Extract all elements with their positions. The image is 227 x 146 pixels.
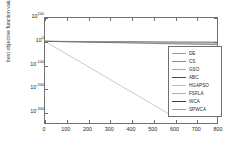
x-tick-mark — [132, 120, 133, 123]
legend-swatch-icon — [172, 101, 186, 102]
x-tick-mark — [67, 120, 68, 123]
legend-item-wca[interactable]: WCA — [169, 98, 221, 106]
x-tick-label: 400 — [119, 126, 143, 132]
x-tick-mark — [45, 18, 46, 21]
x-tick-label: 200 — [76, 126, 100, 132]
series-line-spwca — [45, 41, 174, 117]
x-tick-mark — [110, 18, 111, 21]
legend-swatch-icon — [172, 93, 186, 94]
x-tick-mark — [132, 18, 133, 21]
legend-label: WCA — [189, 99, 200, 104]
x-tick-mark — [154, 18, 155, 21]
y-tick-mark — [45, 113, 48, 114]
legend-label: CS — [189, 59, 195, 64]
legend-swatch-icon — [172, 61, 186, 62]
legend-label: SPWCA — [189, 107, 206, 112]
legend-item-gso[interactable]: GSO — [169, 65, 221, 73]
x-tick-label: 600 — [163, 126, 187, 132]
legend-swatch-icon — [172, 53, 186, 54]
legend-item-fsfla[interactable]: FSFLA — [169, 89, 221, 97]
x-tick-label: 700 — [184, 126, 208, 132]
x-tick-mark — [176, 120, 177, 123]
x-tick-mark — [197, 18, 198, 21]
x-tick-label: 500 — [141, 126, 165, 132]
legend-swatch-icon — [172, 85, 186, 86]
x-tick-label: 800 — [206, 126, 227, 132]
legend-label: HGAPSO — [189, 83, 209, 88]
legend-swatch-icon — [172, 69, 186, 70]
convergence-chart-figure: best objective function value 1010010010… — [0, 0, 227, 146]
x-tick-label: 0 — [32, 126, 56, 132]
y-tick-mark — [214, 18, 217, 19]
x-tick-mark — [197, 120, 198, 123]
y-tick-mark — [45, 42, 48, 43]
y-tick-mark — [45, 66, 48, 67]
legend-label: FSFLA — [189, 91, 204, 96]
x-tick-mark — [89, 18, 90, 21]
legend-item-spwca[interactable]: SPWCA — [169, 106, 221, 114]
x-tick-mark — [67, 18, 68, 21]
legend-item-hgapso[interactable]: HGAPSO — [169, 81, 221, 89]
legend-swatch-icon — [172, 109, 186, 110]
x-tick-mark — [45, 120, 46, 123]
x-tick-mark — [110, 120, 111, 123]
x-tick-label: 300 — [97, 126, 121, 132]
legend[interactable]: DECSGSOABCHGAPSOFSFLAWCASPWCA — [168, 46, 222, 117]
x-tick-mark — [154, 120, 155, 123]
legend-item-de[interactable]: DE — [169, 49, 221, 57]
y-tick-label: 10-100 — [2, 61, 44, 67]
legend-label: DE — [189, 51, 195, 56]
x-tick-label: 100 — [54, 126, 78, 132]
legend-label: GSO — [189, 67, 199, 72]
y-tick-label: 100 — [2, 37, 44, 43]
legend-label: ABC — [189, 75, 199, 80]
x-tick-mark — [176, 18, 177, 21]
x-tick-mark — [89, 120, 90, 123]
y-tick-mark — [214, 42, 217, 43]
y-tick-label: 10-200 — [2, 84, 44, 90]
legend-swatch-icon — [172, 77, 186, 78]
y-tick-label: 10-300 — [2, 108, 44, 114]
y-tick-label: 10100 — [2, 13, 44, 19]
legend-item-abc[interactable]: ABC — [169, 73, 221, 81]
y-tick-mark — [45, 89, 48, 90]
legend-item-cs[interactable]: CS — [169, 57, 221, 65]
